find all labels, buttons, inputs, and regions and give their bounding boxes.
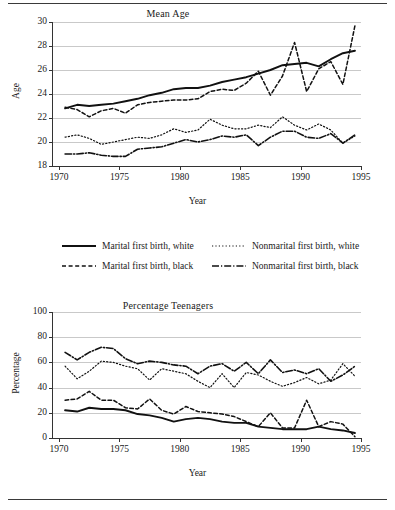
x-tick-mark: [180, 166, 181, 170]
x-tick-label: 1995: [352, 173, 371, 183]
x-tick-mark: [361, 438, 362, 442]
data-series-line: [65, 391, 355, 436]
chart-title-mean-age: Mean Age: [18, 8, 318, 19]
figure-page: Mean Age Age 182022242628301970197519801…: [0, 0, 395, 510]
legend-marital-black: Marital first birth, black: [62, 256, 193, 276]
x-tick-label: 1990: [291, 445, 310, 455]
x-axis-label-year-bottom: Year: [0, 468, 395, 478]
series-layer: [53, 22, 361, 166]
x-tick-mark: [361, 166, 362, 170]
legend-label: Marital first birth, white: [102, 241, 194, 251]
series-layer: [53, 312, 361, 438]
legend-label: Nonmarital first birth, black: [252, 261, 359, 271]
y-tick-mark: [49, 166, 53, 167]
y-tick-label: 26: [38, 65, 48, 75]
y-tick-label: 80: [38, 332, 48, 342]
data-series-line: [65, 26, 355, 117]
legend-dashdot-line-icon: [212, 262, 246, 270]
legend-label: Nonmarital first birth, white: [252, 241, 359, 251]
x-tick-label: 1985: [231, 445, 250, 455]
y-tick-label: 60: [38, 358, 48, 368]
x-tick-mark: [119, 438, 120, 442]
panel-mean-age: Mean Age Age 182022242628301970197519801…: [0, 8, 395, 230]
x-tick-label: 1980: [170, 173, 189, 183]
plot-area-percentage-teenagers: 020406080100197019751980198519901995: [52, 312, 361, 439]
x-tick-label: 1995: [352, 445, 371, 455]
x-tick-label: 1990: [291, 173, 310, 183]
legend-dashed-line-icon: [62, 262, 96, 270]
y-tick-label: 0: [42, 433, 47, 443]
x-tick-mark: [119, 166, 120, 170]
legend-marital-white: Marital first birth, white: [62, 236, 194, 256]
panel-percentage-teenagers: Percentage Teenagers Percentage 02040608…: [0, 300, 395, 496]
legend-nonmarital-black: Nonmarital first birth, black: [212, 256, 359, 276]
x-tick-label: 1970: [50, 445, 69, 455]
y-tick-label: 18: [38, 161, 48, 171]
y-tick-label: 20: [38, 408, 48, 418]
y-tick-mark: [49, 438, 53, 439]
y-tick-label: 30: [38, 17, 48, 27]
x-tick-mark: [180, 438, 181, 442]
legend-row-2: Marital first birth, black Nonmarital fi…: [0, 256, 395, 276]
y-tick-label: 22: [38, 113, 48, 123]
x-tick-label: 1985: [231, 173, 250, 183]
x-tick-label: 1970: [50, 173, 69, 183]
legend-nonmarital-white: Nonmarital first birth, white: [212, 236, 359, 256]
x-tick-label: 1975: [110, 173, 129, 183]
plot-area-mean-age: 18202224262830197019751980198519901995: [52, 22, 361, 167]
x-tick-mark: [240, 438, 241, 442]
x-tick-mark: [59, 438, 60, 442]
page-top-rule: [8, 3, 387, 4]
data-series-line: [65, 361, 355, 387]
y-tick-label: 24: [38, 89, 48, 99]
x-axis-label-year-top: Year: [0, 196, 395, 206]
data-series-line: [65, 347, 355, 381]
y-axis-label-percentage: Percentage: [11, 343, 21, 403]
y-axis-label-age: Age: [11, 71, 21, 111]
x-tick-mark: [301, 438, 302, 442]
y-tick-label: 100: [33, 307, 47, 317]
legend-label: Marital first birth, black: [102, 261, 193, 271]
chart-legend: Marital first birth, white Nonmarital fi…: [0, 236, 395, 284]
x-tick-label: 1980: [170, 445, 189, 455]
x-tick-mark: [240, 166, 241, 170]
data-series-line: [65, 131, 355, 156]
x-tick-mark: [59, 166, 60, 170]
legend-dotted-line-icon: [212, 242, 246, 250]
data-series-line: [65, 51, 355, 109]
legend-row-1: Marital first birth, white Nonmarital fi…: [0, 236, 395, 256]
y-tick-label: 20: [38, 137, 48, 147]
chart-title-percentage-teenagers: Percentage Teenagers: [18, 300, 318, 311]
y-tick-label: 40: [38, 383, 48, 393]
y-tick-label: 28: [38, 41, 48, 51]
legend-solid-line-icon: [62, 242, 96, 250]
page-bottom-rule: [8, 499, 387, 500]
x-tick-label: 1975: [110, 445, 129, 455]
x-tick-mark: [301, 166, 302, 170]
